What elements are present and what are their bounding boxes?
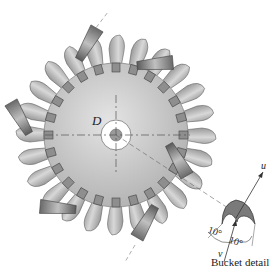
bucket [108, 203, 124, 235]
caption: Bucket detail [211, 256, 269, 268]
bucket [184, 128, 216, 144]
bucket [109, 35, 125, 67]
u-label: u [261, 160, 266, 171]
bucket-mount [112, 198, 120, 207]
diameter-label: D [92, 113, 101, 129]
bucket-mount [112, 63, 120, 72]
jet-line [125, 245, 135, 262]
bucket-detail [208, 172, 263, 262]
